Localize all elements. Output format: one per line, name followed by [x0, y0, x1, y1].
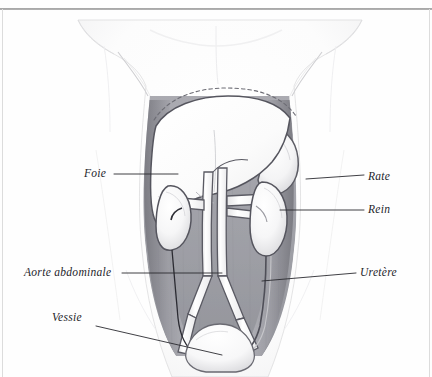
label-rate: Rate: [368, 171, 390, 183]
leader-line-rate: [306, 175, 364, 179]
label-aorte-abdominale: Aorte abdominale: [24, 267, 112, 279]
label-vessie: Vessie: [52, 312, 82, 324]
label-rein: Rein: [368, 204, 390, 216]
anatomical-plate-page: Foie Aorte abdominale Vessie Rate Rein U…: [0, 0, 432, 377]
label-foie: Foie: [84, 168, 106, 180]
label-uretere: Uretère: [360, 267, 397, 279]
